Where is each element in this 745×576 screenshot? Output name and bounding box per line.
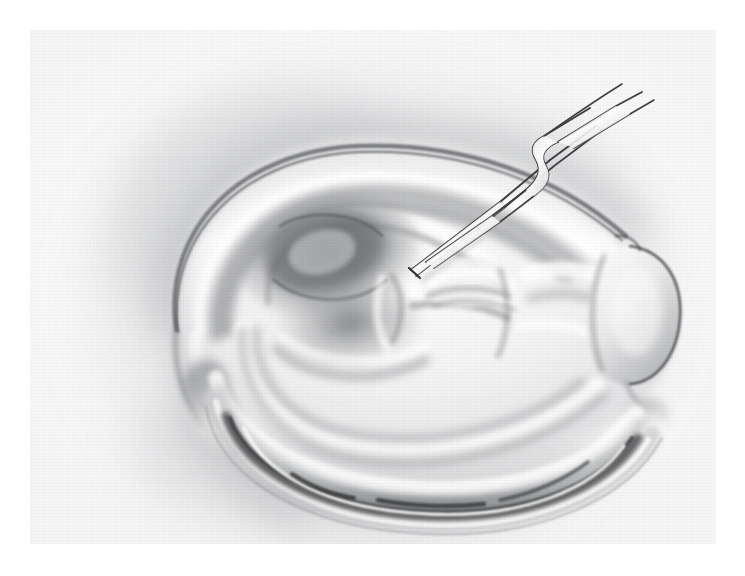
- drawing-plate: [30, 30, 716, 544]
- paper-texture: [30, 30, 716, 544]
- illustration-figure: [0, 0, 745, 576]
